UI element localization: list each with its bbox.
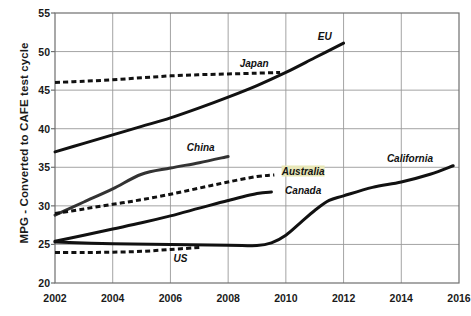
y-tick-label: 50: [28, 46, 50, 58]
series-label-eu: EU: [318, 31, 332, 42]
series-label-japan: Japan: [240, 58, 269, 69]
series-line-australia: [55, 175, 274, 214]
series-label-us: US: [174, 252, 188, 263]
mpg-fuel-economy-line-chart: MPG - Converted to CAFE test cycle 20253…: [0, 0, 471, 316]
chart-title: [0, 0, 471, 6]
x-tick-label: 2008: [208, 292, 248, 304]
series-line-eu: [55, 43, 344, 152]
y-tick-label: 35: [28, 161, 50, 173]
y-tick-label: 25: [28, 238, 50, 250]
x-tick-label: 2002: [35, 292, 75, 304]
x-tick-label: 2004: [93, 292, 133, 304]
y-tick-label: 20: [28, 277, 50, 289]
x-tick-label: 2006: [150, 292, 190, 304]
x-tick-label: 2016: [439, 292, 471, 304]
y-tick-label: 30: [28, 200, 50, 212]
y-tick-label: 55: [28, 7, 50, 19]
series-label-canada: Canada: [285, 185, 321, 196]
series-label-california: California: [387, 153, 433, 164]
series-label-australia: Australia: [282, 166, 325, 177]
x-tick-label: 2014: [381, 292, 421, 304]
series-label-china: China: [187, 142, 215, 153]
y-tick-label: 40: [28, 123, 50, 135]
y-axis-tick-labels: 2025303540455055: [26, 0, 50, 316]
series-line-japan: [55, 72, 280, 82]
x-tick-label: 2012: [324, 292, 364, 304]
x-tick-label: 2010: [266, 292, 306, 304]
y-tick-label: 45: [28, 84, 50, 96]
